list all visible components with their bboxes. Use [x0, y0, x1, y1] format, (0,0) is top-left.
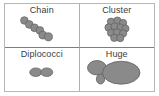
cell-diplococci[interactable]: Diplococci [5, 48, 80, 92]
figure-root: Chain Cluster [0, 0, 159, 96]
huge-illustration [80, 48, 155, 92]
arrangement-grid: Chain Cluster [4, 3, 155, 92]
cluster-illustration [80, 4, 155, 47]
cell-cluster[interactable]: Cluster [80, 4, 155, 48]
cell-huge[interactable]: Huge [80, 48, 155, 92]
cell-chain[interactable]: Chain [5, 4, 80, 48]
diplococci-illustration [5, 48, 79, 92]
chain-illustration [5, 4, 79, 47]
